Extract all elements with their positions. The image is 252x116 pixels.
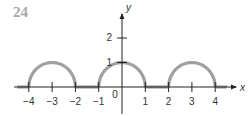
- x-tick-label: −4: [23, 96, 35, 107]
- y-tick-label: 1: [106, 57, 112, 68]
- y-tick-label: 2: [106, 32, 112, 43]
- x-tick-label: −2: [70, 96, 82, 107]
- x-tick-label: −1: [93, 96, 105, 107]
- tick-labels: −4−3−2−10123412xy: [23, 2, 246, 107]
- x-tick-label: 1: [143, 96, 149, 107]
- x-tick-label: 4: [212, 96, 218, 107]
- x-tick-label: 2: [166, 96, 172, 107]
- y-axis-label: y: [125, 2, 132, 13]
- x-tick-label: 0: [112, 89, 118, 100]
- x-axis-label: x: [239, 82, 246, 93]
- x-tick-label: 3: [189, 96, 195, 107]
- function-graph: −4−3−2−10123412xy: [0, 0, 252, 116]
- x-tick-label: −3: [46, 96, 58, 107]
